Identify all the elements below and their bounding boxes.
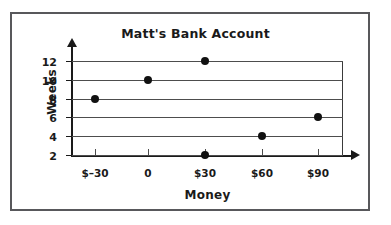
x-axis-tick <box>318 149 319 155</box>
y-axis-tick: 10 <box>66 80 72 81</box>
data-point <box>91 95 99 103</box>
gridline <box>72 136 343 137</box>
y-axis-tick: 2 <box>66 155 72 156</box>
x-axis-tick-label: $–30 <box>81 167 108 179</box>
y-axis-arrow-icon <box>67 38 77 47</box>
x-axis-tick-label: $60 <box>251 167 273 179</box>
x-axis-tick <box>95 149 96 155</box>
x-axis-tick <box>148 149 149 155</box>
data-point <box>201 57 209 65</box>
chart-page: Matt's Bank Account Weeks Money 24681012… <box>0 0 391 225</box>
y-axis-tick: 4 <box>66 136 72 137</box>
gridline <box>72 99 343 100</box>
y-axis-tick-label: 4 <box>49 131 57 144</box>
x-axis-tick-label: $30 <box>194 167 216 179</box>
gridline <box>72 80 343 81</box>
grid-box <box>72 61 343 155</box>
chart-title: Matt's Bank Account <box>0 26 391 41</box>
data-point <box>201 151 209 159</box>
y-axis-tick: 12 <box>66 61 72 62</box>
y-axis-tick-label: 8 <box>49 93 57 106</box>
x-axis-tick <box>262 149 263 155</box>
x-axis-title: Money <box>72 188 343 202</box>
y-axis-tick-label: 6 <box>49 112 57 125</box>
y-axis-tick-label: 2 <box>49 150 57 163</box>
y-axis-tick: 6 <box>66 117 72 118</box>
x-axis-tick-label: 0 <box>144 167 151 179</box>
y-axis-tick-label: 10 <box>42 74 57 87</box>
gridline <box>72 117 343 118</box>
x-axis-arrow-icon <box>351 150 360 160</box>
y-axis-tick: 8 <box>66 99 72 100</box>
data-point <box>144 76 152 84</box>
x-axis-tick-label: $90 <box>307 167 329 179</box>
y-axis-tick-label: 12 <box>42 56 57 69</box>
plot-area: 24681012 $–300$30$60$90 <box>72 55 343 155</box>
